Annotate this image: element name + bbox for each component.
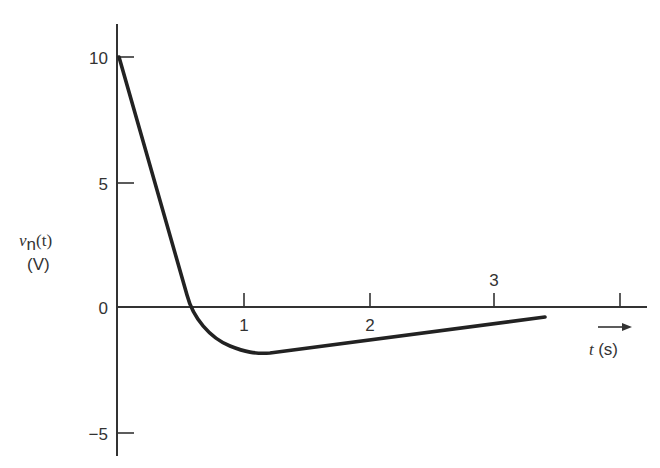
y-ticks — [117, 57, 134, 433]
y-tick-label-10: 10 — [89, 49, 108, 68]
x-ticks — [244, 293, 620, 307]
x-tick-label-1: 1 — [239, 316, 248, 335]
x-tick-label-2: 2 — [365, 316, 374, 335]
y-unit: (V) — [27, 255, 50, 274]
y-tick-label-0: 0 — [99, 299, 108, 318]
svg-text:t (s): t (s) — [589, 340, 618, 359]
y-tick-label-minus5: −5 — [89, 425, 108, 444]
y-sub: n — [27, 235, 36, 254]
chart: 10 5 0 −5 1 2 3 vn(t) (V) t (s) — [0, 0, 660, 468]
x-tick-label-3: 3 — [489, 271, 498, 290]
svg-text:vn(t): vn(t) — [19, 231, 52, 254]
y-tick-label-5: 5 — [99, 175, 108, 194]
x-var: t — [589, 340, 595, 359]
x-unit: (s) — [598, 340, 618, 359]
y-axis-label: vn(t) (V) — [19, 231, 52, 274]
vn-curve — [119, 57, 545, 353]
y-arg: (t) — [36, 231, 52, 250]
x-axis-label: t (s) — [589, 323, 632, 359]
